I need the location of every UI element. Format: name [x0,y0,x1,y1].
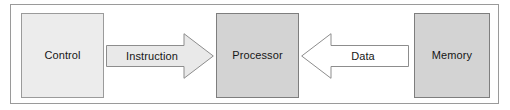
node-memory: Memory [414,13,490,98]
node-control-label: Control [44,50,80,61]
block-diagram: Control Instruction Processor Data Memor… [0,0,510,110]
node-control: Control [21,13,104,98]
arrow-right-icon [106,33,214,79]
node-processor: Processor [216,13,299,98]
node-memory-label: Memory [432,50,472,61]
arrow-instruction: Instruction [106,33,214,79]
arrow-data: Data [301,33,409,79]
arrow-left-icon [301,33,409,79]
node-processor-label: Processor [232,50,282,61]
